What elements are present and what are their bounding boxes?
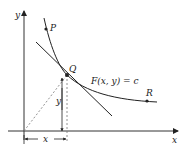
level-curve-diagram: y x P Q R F(x, y) = c y x xyxy=(0,0,186,151)
x-axis-label: x xyxy=(172,135,177,145)
y-dimension-label: y xyxy=(55,96,62,106)
x-dimension-label: x xyxy=(43,134,48,144)
curve-equation-label: F(x, y) = c xyxy=(90,76,138,86)
y-axis-label: y xyxy=(14,10,21,20)
point-P-label: P xyxy=(49,23,57,33)
point-R xyxy=(145,99,148,102)
point-Q-label: Q xyxy=(69,64,77,74)
point-P xyxy=(44,27,47,30)
level-curve xyxy=(44,18,157,102)
point-R-label: R xyxy=(145,88,153,98)
